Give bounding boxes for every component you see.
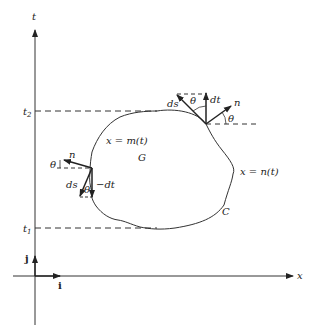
right-dt-label: dt xyxy=(210,94,221,105)
t1-label: t1 xyxy=(23,223,32,236)
j-label: j xyxy=(24,253,29,264)
region-g-label: G xyxy=(138,152,146,163)
boundary-c-label: C xyxy=(222,206,230,217)
left-theta-bottom-label: θ xyxy=(84,184,90,195)
right-n-label: n xyxy=(234,97,240,108)
left-curve-label: x = m(t) xyxy=(106,135,148,146)
right-theta-top-label: θ xyxy=(190,95,196,106)
i-label: i xyxy=(58,280,62,291)
diagram-canvas: t x j i t2 t1 x = m(t) G x = n(t) C ds θ… xyxy=(0,0,314,335)
left-theta-left-label: θ xyxy=(50,159,56,170)
t2-label: t2 xyxy=(23,106,32,119)
right-ds-label: ds xyxy=(167,98,179,109)
boundary-curve-c xyxy=(90,110,234,229)
right-theta-right-label: θ xyxy=(228,113,234,124)
green-theorem-diagram: t x j i t2 t1 x = m(t) G x = n(t) C ds θ… xyxy=(0,0,314,335)
right-angle-arc-right xyxy=(222,112,226,124)
left-n-label: n xyxy=(69,149,75,160)
x-axis-label: x xyxy=(297,270,303,281)
left-normal-vector xyxy=(64,160,92,168)
t-axis-label: t xyxy=(32,11,37,22)
right-curve-label: x = n(t) xyxy=(240,166,279,177)
left-ds-label: ds xyxy=(66,179,78,190)
right-angle-arc-top xyxy=(193,106,206,111)
left-dt-label: −dt xyxy=(96,179,116,190)
